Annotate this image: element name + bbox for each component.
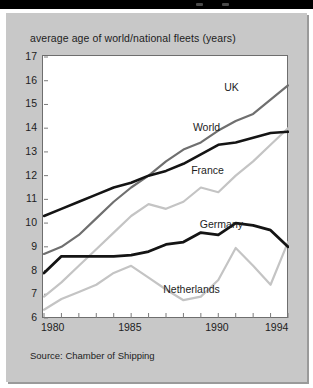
series-label-world: World [193,121,220,133]
series-label-germany: Germany [200,218,243,230]
plot-svg-canvas [43,56,289,319]
series-label-uk: UK [224,81,239,93]
series-line-france [44,128,288,296]
series-line-netherlands [44,242,288,310]
y-axis-tick-label: 16 [21,75,37,85]
y-axis-tick-label: 7 [21,288,37,298]
source-note: Source: Chamber of Shipping [30,350,155,361]
x-axis-tick-label: 1990 [205,321,228,333]
y-axis-tick-label: 15 [21,98,37,108]
y-axis-tick-label: 17 [21,51,37,61]
y-axis-tick-label: 10 [21,217,37,227]
y-axis-tick-label: 14 [21,122,37,132]
topbar-dot-left-icon [196,3,203,6]
series-label-netherlands: Netherlands [163,283,220,295]
y-axis-tick-label: 13 [21,146,37,156]
x-axis-tick-label: 1985 [118,321,141,333]
chart-title: average age of world/national fleets (ye… [30,32,236,44]
plot-area [42,55,288,318]
y-axis-tick-label: 6 [21,312,37,322]
series-label-france: France [191,164,224,176]
y-axis-tick-label: 8 [21,265,37,275]
series-line-world [44,132,288,216]
y-axis-tick-label: 12 [21,170,37,180]
top-black-band [0,0,313,9]
x-axis-tick-label: 1980 [41,321,64,333]
y-axis-tick-label: 11 [21,193,37,203]
screenshot-root: average age of world/national fleets (ye… [0,0,313,388]
topbar-dot-right-icon [222,3,229,6]
chart-card: average age of world/national fleets (ye… [6,13,307,382]
x-axis-tick-label: 1994 [265,321,288,333]
y-axis-tick-label: 9 [21,241,37,251]
